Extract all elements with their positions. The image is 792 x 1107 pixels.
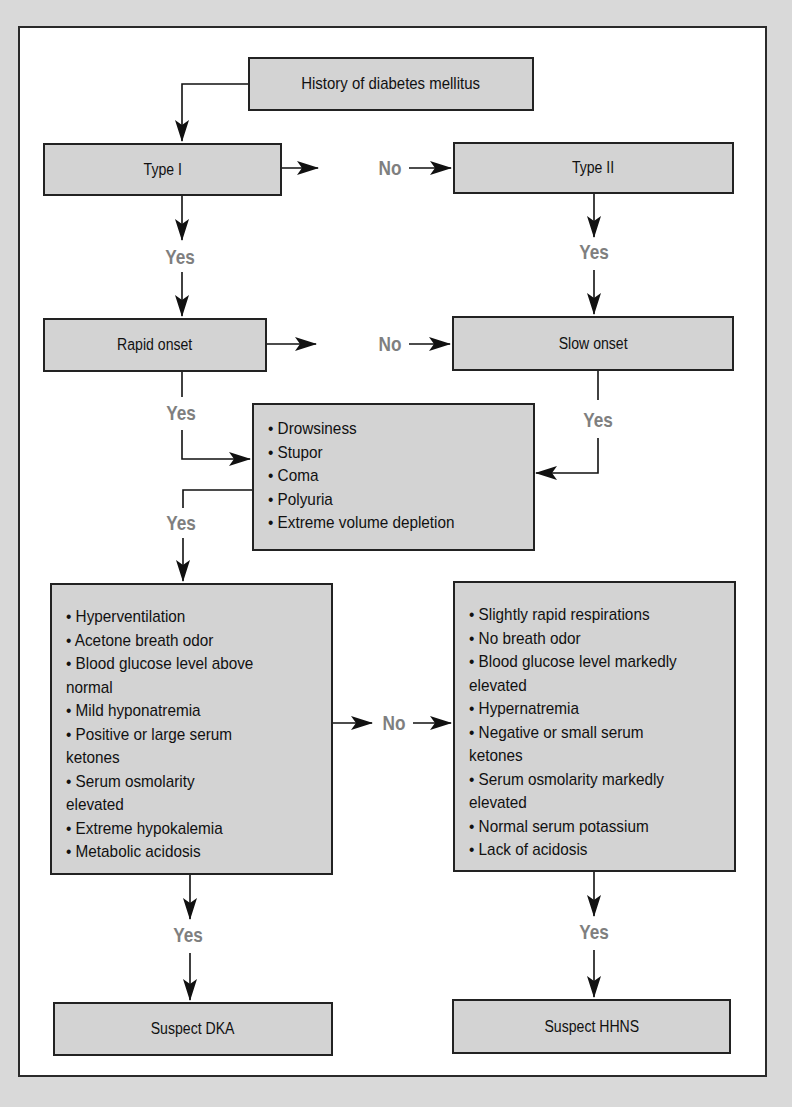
dka-criteria-item: ketones [66, 746, 294, 770]
symptom-item: • Coma [268, 464, 496, 488]
start-box-history-of-diabetes: History of diabetes mellitus [248, 57, 534, 111]
symptom-item: • Stupor [268, 441, 496, 465]
hhns-criteria-item: • Serum osmolarity markedly [469, 768, 697, 792]
hhns-criteria-item: • Slightly rapid respirations [469, 603, 697, 627]
edge-label-type2-yes: Yes [579, 241, 609, 262]
suspect-dka-label: Suspect DKA [151, 1020, 235, 1038]
dka-criteria-item: • Mild hyponatremia [66, 699, 294, 723]
dka-criteria-item: • Extreme hypokalemia [66, 817, 294, 841]
dka-criteria-item: • Serum osmolarity [66, 770, 294, 794]
symptom-item: • Extreme volume depletion [268, 511, 496, 535]
hhns-criteria-item: elevated [469, 674, 697, 698]
dka-criteria-item: normal [66, 676, 294, 700]
edge-label-symptoms-yes: Yes [166, 512, 196, 533]
hhns-criteria-item: • Lack of acidosis [469, 838, 697, 862]
dka-criteria-box: • Hyperventilation • Acetone breath odor… [50, 583, 333, 875]
symptom-item: • Drowsiness [268, 417, 496, 441]
edge-label-type1-yes: Yes [165, 246, 195, 267]
type1-label: Type I [143, 161, 181, 179]
type2-box: Type II [453, 142, 734, 194]
dka-criteria-item: • Metabolic acidosis [66, 840, 294, 864]
edge-label-dka-yes: Yes [173, 924, 203, 945]
hhns-criteria-item: • Normal serum potassium [469, 815, 697, 839]
suspect-dka-box: Suspect DKA [53, 1002, 333, 1056]
symptom-item: • Polyuria [268, 488, 496, 512]
type1-box: Type I [43, 143, 282, 196]
edge-label-rapid-no: No [379, 333, 402, 354]
edge-label-type1-no: No [379, 157, 402, 178]
hhns-criteria-item: elevated [469, 791, 697, 815]
suspect-hhns-label: Suspect HHNS [544, 1018, 639, 1036]
edge-label-rapid-yes: Yes [166, 402, 196, 423]
hhns-criteria-item: • No breath odor [469, 627, 697, 651]
rapid-onset-label: Rapid onset [117, 336, 192, 354]
edge-label-dka-no: No [383, 712, 406, 733]
hhns-criteria-item: ketones [469, 744, 697, 768]
slow-onset-label: Slow onset [559, 335, 628, 353]
symptoms-box: • Drowsiness • Stupor • Coma • Polyuria … [252, 403, 535, 551]
dka-criteria-item: • Acetone breath odor [66, 629, 294, 653]
hhns-criteria-box: • Slightly rapid respirations • No breat… [453, 581, 736, 872]
dka-criteria-item: • Hyperventilation [66, 605, 294, 629]
dka-criteria-item: • Blood glucose level above [66, 652, 294, 676]
edge-label-slow-yes: Yes [583, 409, 613, 430]
suspect-hhns-box: Suspect HHNS [452, 999, 731, 1054]
rapid-onset-box: Rapid onset [43, 318, 267, 372]
slow-onset-box: Slow onset [452, 316, 734, 371]
dka-criteria-item: elevated [66, 793, 294, 817]
dka-criteria-item: • Positive or large serum [66, 723, 294, 747]
hhns-criteria-item: • Hypernatremia [469, 697, 697, 721]
type2-label: Type II [572, 159, 614, 177]
hhns-criteria-item: • Negative or small serum [469, 721, 697, 745]
start-box-label: History of diabetes mellitus [302, 74, 481, 94]
hhns-criteria-item: • Blood glucose level markedly [469, 650, 697, 674]
edge-label-hhns-yes: Yes [579, 921, 609, 942]
